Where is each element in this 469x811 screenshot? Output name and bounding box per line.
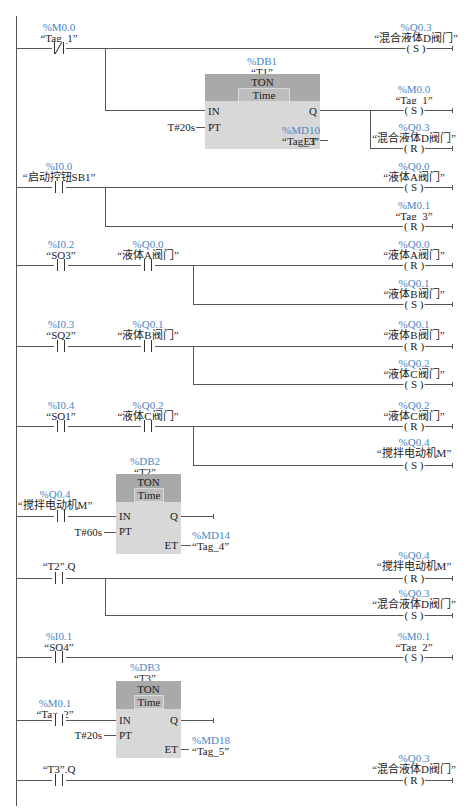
et-wire [181, 749, 189, 750]
q-wire [181, 720, 213, 721]
no-contact-icon[interactable] [52, 651, 66, 663]
branch-wire [193, 426, 194, 465]
et-wire [181, 545, 191, 546]
right-rail-tick [452, 382, 453, 387]
q-end-tick [213, 718, 214, 723]
no-contact-icon[interactable] [52, 572, 66, 584]
right-rail-tick [452, 576, 453, 581]
reset-coil[interactable]: ( R ) [403, 259, 425, 271]
right-rail-tick [452, 108, 453, 113]
set-coil[interactable]: ( S ) [404, 181, 425, 193]
right-rail-tick [452, 463, 453, 468]
q-wire [181, 516, 213, 517]
et-name: “Tag_3” [282, 135, 319, 147]
rung-wire [16, 578, 452, 579]
pt-wire [104, 735, 116, 736]
right-rail-tick [452, 302, 453, 307]
branch-wire [193, 346, 194, 384]
rung-wire [16, 187, 452, 188]
right-rail-tick [452, 344, 453, 349]
pin-q: Q [170, 714, 178, 726]
no-contact-icon[interactable] [54, 420, 68, 432]
right-rail-tick [452, 224, 453, 229]
set-coil[interactable]: ( S ) [404, 609, 425, 621]
timer-time-type: Time [238, 88, 290, 102]
set-coil[interactable]: ( S ) [404, 104, 425, 116]
q-end-tick [213, 514, 214, 519]
ton-timer-block[interactable]: TON Time IN PT Q ET [116, 681, 181, 758]
rung-wire [16, 48, 452, 49]
et-wire [320, 140, 328, 141]
rung-wire [16, 265, 452, 266]
timer-time-type: Time [134, 695, 164, 709]
reset-coil[interactable]: ( R ) [403, 420, 425, 432]
pin-pt: PT [119, 525, 132, 537]
set-coil[interactable]: ( S ) [404, 459, 425, 471]
pin-in: IN [119, 510, 131, 522]
ladder-diagram: %M0.0 “Tag_1” %Q0.3 “混合液体D阀门” ( S ) %DB1… [0, 0, 469, 811]
pt-wire [104, 532, 116, 533]
pin-q: Q [309, 105, 317, 117]
set-coil[interactable]: ( S ) [404, 651, 425, 663]
reset-coil[interactable]: ( R ) [403, 340, 425, 352]
no-contact-icon[interactable] [52, 714, 66, 726]
pin-et: ET [165, 743, 178, 755]
reset-coil[interactable]: ( R ) [403, 142, 425, 154]
pin-pt: PT [208, 121, 221, 133]
contact-name: “T2”.Q [43, 560, 76, 572]
rung-wire [16, 426, 452, 427]
no-contact-icon[interactable] [54, 340, 68, 352]
pin-in: IN [208, 105, 220, 117]
q-wire [320, 110, 452, 111]
branch-wire [105, 578, 106, 615]
nc-contact-icon[interactable] [52, 42, 66, 54]
pin-pt: PT [119, 729, 132, 741]
timer-time-type: Time [134, 488, 164, 502]
timer-type: TON [116, 476, 181, 488]
timer-type: TON [205, 76, 320, 88]
rung-wire [16, 657, 452, 658]
set-coil[interactable]: ( S ) [404, 378, 425, 390]
no-contact-icon[interactable] [141, 259, 155, 271]
set-coil[interactable]: ( S ) [404, 298, 425, 310]
timer-type: TON [116, 683, 181, 695]
right-rail-tick [452, 146, 453, 151]
ton-timer-block[interactable]: TON Time IN PT Q ET [116, 474, 181, 554]
in-wire [105, 110, 205, 111]
right-rail-tick [452, 46, 453, 51]
q-branch [370, 110, 371, 148]
right-rail-tick [452, 655, 453, 660]
reset-coil[interactable]: ( R ) [403, 220, 425, 232]
no-contact-icon[interactable] [54, 259, 68, 271]
pt-value: T#20s [155, 121, 195, 133]
branch-wire [193, 265, 194, 304]
branch-wire [105, 187, 106, 226]
et-name: “Tag_5” [192, 745, 229, 757]
branch-wire [105, 48, 106, 111]
pin-in: IN [119, 714, 131, 726]
pt-value: T#60s [62, 526, 102, 538]
right-rail-tick [452, 263, 453, 268]
no-contact-icon[interactable] [54, 510, 68, 522]
pin-q: Q [170, 510, 178, 522]
reset-coil[interactable]: ( R ) [403, 774, 425, 786]
pin-et: ET [165, 539, 178, 551]
coil-name: “搅拌电动机M” [377, 447, 452, 459]
no-contact-icon[interactable] [141, 420, 155, 432]
no-contact-icon[interactable] [52, 181, 66, 193]
no-contact-icon[interactable] [52, 774, 66, 786]
rung-wire [16, 346, 452, 347]
rung-wire [16, 720, 116, 721]
rung-wire [16, 780, 452, 781]
right-rail-tick [452, 185, 453, 190]
right-rail-tick [452, 778, 453, 783]
reset-coil[interactable]: ( R ) [403, 572, 425, 584]
pt-wire [196, 127, 205, 128]
branch-wire [105, 615, 452, 616]
no-contact-icon[interactable] [141, 340, 155, 352]
set-coil[interactable]: ( S ) [406, 42, 427, 54]
right-rail-tick [452, 424, 453, 429]
coil-name: “搅拌电动机M” [377, 560, 452, 572]
branch-wire [105, 226, 452, 227]
left-power-rail [16, 16, 17, 806]
